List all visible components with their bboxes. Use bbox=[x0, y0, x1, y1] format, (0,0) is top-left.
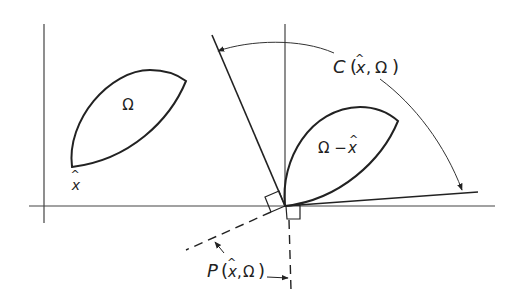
svg-text:Ω: Ω bbox=[243, 263, 254, 281]
omega-set-shape bbox=[71, 70, 186, 167]
cone-arc-left bbox=[218, 42, 334, 53]
polar-arrow-left bbox=[215, 242, 224, 253]
polar-cone-left-boundary bbox=[186, 212, 271, 250]
polar-label: P ( ^ x , Ω ) bbox=[207, 256, 265, 281]
polar-cone-right-boundary bbox=[289, 220, 291, 290]
svg-text:,: , bbox=[237, 263, 242, 281]
omega-minus-x-label: Ω − bbox=[318, 139, 347, 157]
right-angle-marker-right bbox=[286, 205, 300, 219]
polar-arrow-right bbox=[267, 277, 288, 278]
svg-text:x: x bbox=[355, 58, 366, 77]
omega-label: Ω bbox=[122, 96, 133, 114]
svg-text:): ) bbox=[392, 56, 399, 77]
svg-text:Ω: Ω bbox=[375, 58, 387, 77]
omega-minus-x-x: x bbox=[347, 139, 357, 157]
diagram-canvas: Ω ^ x Ω − ^ x C ( ^ x , Ω ) P ( ^ x , Ω … bbox=[0, 0, 519, 307]
svg-text:x: x bbox=[227, 263, 237, 281]
right-angle-marker-left bbox=[265, 191, 285, 212]
svg-text:): ) bbox=[258, 260, 265, 281]
svg-text:,: , bbox=[366, 58, 371, 77]
svg-text:P: P bbox=[207, 260, 218, 281]
cone-label: C ( ^ x , Ω ) bbox=[333, 52, 399, 77]
cone-left-boundary bbox=[212, 35, 285, 206]
svg-text:C: C bbox=[333, 56, 346, 77]
x-hat-label: x bbox=[71, 177, 81, 193]
